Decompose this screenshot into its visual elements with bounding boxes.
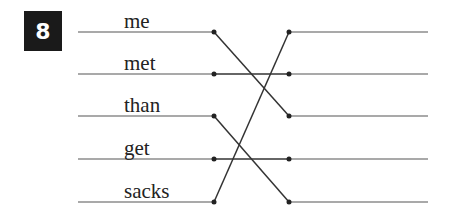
right-endpoint-dot[interactable] xyxy=(287,30,292,35)
left-word-get: get xyxy=(124,138,150,159)
left-endpoint-dot[interactable] xyxy=(212,72,217,77)
left-endpoint-dot[interactable] xyxy=(212,114,217,119)
right-endpoint-dot[interactable] xyxy=(287,200,292,205)
matching-diagram xyxy=(0,0,450,217)
left-word-me: me xyxy=(124,11,150,32)
left-word-than: than xyxy=(124,95,160,116)
left-endpoint-dot[interactable] xyxy=(212,200,217,205)
left-endpoint-dot[interactable] xyxy=(212,30,217,35)
left-endpoint-dot[interactable] xyxy=(212,157,217,162)
left-word-sacks: sacks xyxy=(124,181,170,202)
right-endpoint-dot[interactable] xyxy=(287,114,292,119)
connection-line xyxy=(214,32,289,202)
right-endpoint-dot[interactable] xyxy=(287,72,292,77)
right-endpoint-dot[interactable] xyxy=(287,157,292,162)
left-word-met: met xyxy=(124,53,156,74)
